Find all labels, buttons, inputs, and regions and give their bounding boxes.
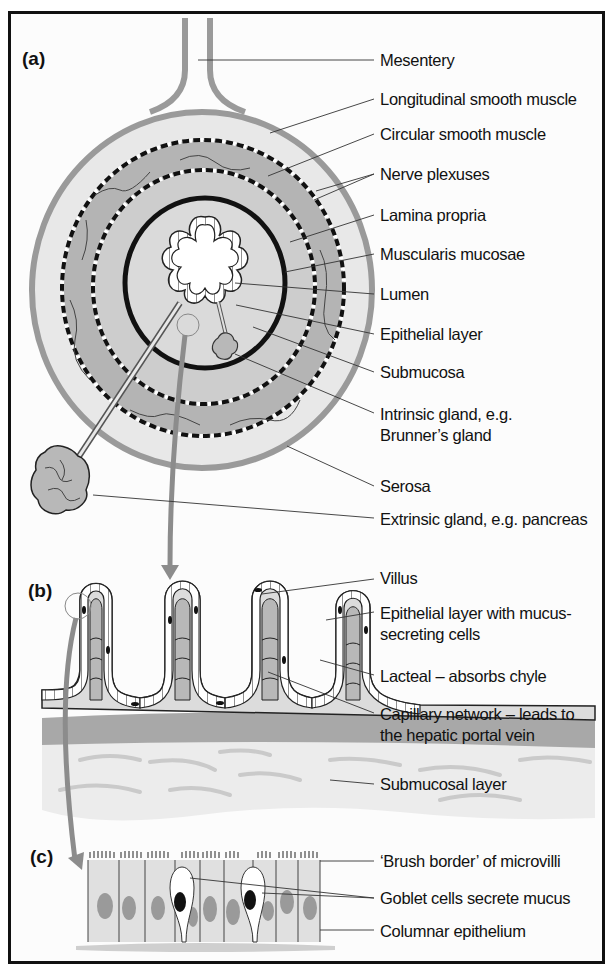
- label-mesentery: Mesentery: [380, 50, 454, 70]
- label-capillary-network: Capillary network – leads to: [380, 704, 574, 724]
- label-lamina-propria: Lamina propria: [380, 205, 486, 225]
- label-goblet-cells: Goblet cells secrete mucus: [380, 888, 570, 908]
- label-circular-smooth-muscle: Circular smooth muscle: [380, 124, 546, 144]
- panel-label-c: (c): [30, 846, 53, 868]
- panel-label-a: (a): [22, 48, 45, 70]
- epithelium-section: [76, 851, 335, 952]
- label-intrinsic-gland-example: Brunner’s gland: [380, 425, 491, 445]
- label-columnar-epithelium: Columnar epithelium: [380, 921, 526, 941]
- label-brush-border: ‘Brush border’ of microvilli: [380, 851, 561, 871]
- label-lacteal: Lacteal – absorbs chyle: [380, 666, 546, 686]
- cross-section: [31, 18, 372, 580]
- label-villus: Villus: [380, 568, 417, 588]
- label-submucosal-layer: Submucosal layer: [380, 774, 506, 794]
- label-extrinsic-gland: Extrinsic gland, e.g. pancreas: [380, 509, 587, 529]
- label-lumen: Lumen: [380, 284, 429, 304]
- label-epithelial-mucus-2: secreting cells: [380, 624, 480, 644]
- label-epithelial-mucus: Epithelial layer with mucus-: [380, 603, 572, 623]
- label-muscularis-mucosae: Muscularis mucosae: [380, 244, 525, 264]
- label-serosa: Serosa: [380, 476, 430, 496]
- label-capillary-network-2: the hepatic portal vein: [380, 725, 535, 745]
- label-intrinsic-gland: Intrinsic gland, e.g.: [380, 404, 512, 424]
- label-longitudinal-smooth-muscle: Longitudinal smooth muscle: [380, 89, 577, 109]
- label-epithelial-layer: Epithelial layer: [380, 324, 483, 344]
- label-submucosa: Submucosa: [380, 362, 464, 382]
- intestine-diagram: [0, 0, 612, 975]
- mesentery-left: [150, 18, 185, 112]
- mesentery-right: [210, 18, 245, 112]
- panel-label-b: (b): [28, 580, 52, 602]
- label-nerve-plexuses: Nerve plexuses: [380, 164, 490, 184]
